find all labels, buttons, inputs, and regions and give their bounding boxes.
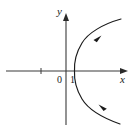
parabola-plot [0,0,133,132]
parabola-upper-branch [74,19,121,71]
y-axis-label: y [57,6,62,17]
y-axis-arrowhead-icon [63,13,69,21]
parabola-figure: y x 0 1 [0,0,133,132]
x-axis-label: x [120,74,125,85]
lower-branch-direction-arrow-icon [99,105,107,112]
parabola-lower-curve [74,71,120,124]
parabola-lower-branch [74,71,120,124]
x-axis [6,68,128,74]
origin-label: 0 [57,75,62,85]
parabola-upper-curve [74,19,121,71]
upper-branch-direction-arrow-icon [94,36,102,43]
x-tick-label-one: 1 [70,75,75,85]
y-axis [63,13,69,125]
